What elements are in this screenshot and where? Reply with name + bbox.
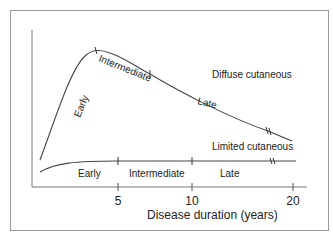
diffuse-intermediate-label: Intermediate — [97, 53, 153, 84]
limited-early-label: Early — [78, 168, 101, 179]
limited-intermediate-label: Intermediate — [129, 168, 185, 179]
x-tick-label-10: 10 — [185, 194, 199, 208]
diffuse-early-label: Early — [72, 93, 91, 118]
diffuse-late-label: Late — [197, 95, 219, 110]
x-tick-label-5: 5 — [115, 194, 122, 208]
diffuse-cutaneous-label: Diffuse cutaneous — [212, 69, 292, 80]
limited-cutaneous-label: Limited cutaneous — [212, 141, 293, 152]
x-tick-label-20: 20 — [286, 194, 300, 208]
disease-course-chart: Early Intermediate Late Diffuse cutaneou… — [0, 0, 333, 242]
x-axis-title: Disease duration (years) — [147, 208, 278, 222]
limited-late-label: Late — [220, 168, 240, 179]
